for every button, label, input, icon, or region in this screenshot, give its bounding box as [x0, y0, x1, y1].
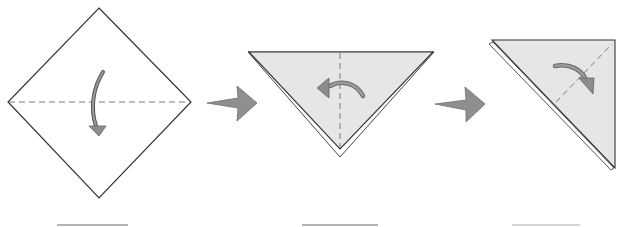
step-1 [8, 8, 191, 198]
step-arrow-right-icon [207, 86, 257, 121]
origami-diagram [0, 0, 620, 227]
paper-diamond [8, 8, 191, 198]
diagram-svg [0, 0, 620, 227]
step-2 [248, 52, 434, 157]
paper-front-layer [492, 40, 615, 168]
paper-front-layer [249, 52, 433, 149]
step-arrow-right-icon [435, 87, 485, 122]
step-3 [489, 40, 615, 170]
